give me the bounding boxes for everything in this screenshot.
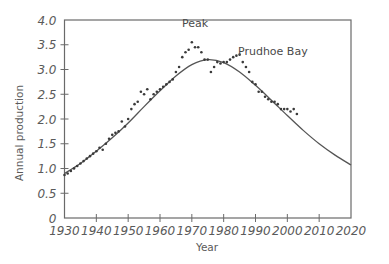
data-point	[76, 165, 79, 168]
data-point	[200, 51, 203, 54]
data-point	[203, 58, 206, 61]
data-point	[121, 120, 124, 123]
data-point	[194, 46, 197, 49]
data-point	[98, 146, 101, 149]
data-point	[210, 71, 213, 74]
data-point	[251, 81, 254, 84]
data-point	[105, 142, 108, 145]
data-point	[162, 86, 165, 89]
y-tick-label: 1.0	[37, 162, 56, 176]
x-tick-label: 1950	[113, 224, 144, 238]
data-point	[143, 93, 146, 96]
data-point	[152, 93, 155, 96]
data-point	[216, 61, 219, 64]
data-point	[178, 66, 181, 69]
data-point	[181, 56, 184, 59]
data-point	[130, 108, 133, 111]
data-point	[248, 71, 251, 74]
data-point	[273, 100, 276, 103]
data-point	[149, 98, 152, 101]
data-point	[264, 95, 267, 98]
x-tick-label: 1980	[208, 224, 239, 238]
y-tick-label: 3.5	[37, 38, 56, 52]
data-point	[257, 90, 260, 93]
data-point	[140, 90, 143, 93]
data-point	[232, 56, 235, 59]
y-tick-label: 4.0	[37, 14, 56, 28]
data-point	[117, 130, 120, 133]
data-point	[146, 88, 149, 91]
data-point	[222, 61, 225, 64]
data-point	[197, 46, 200, 49]
data-point	[114, 132, 117, 135]
data-point	[63, 174, 66, 177]
x-tick-label: 2010	[304, 224, 335, 238]
data-point	[292, 108, 295, 111]
data-point	[219, 62, 222, 65]
data-point	[191, 41, 194, 44]
data-point	[70, 170, 73, 173]
data-point	[85, 157, 88, 160]
data-point	[289, 110, 292, 113]
data-point	[276, 103, 279, 106]
data-point	[226, 61, 229, 64]
data-point	[66, 172, 69, 175]
production-dots	[63, 41, 298, 176]
x-tick-label: 1970	[177, 224, 208, 238]
y-tick-label: 2.5	[37, 88, 56, 102]
x-tick-label: 1930	[49, 224, 80, 238]
data-point	[261, 90, 264, 93]
data-point	[213, 66, 216, 69]
data-point	[92, 152, 95, 155]
data-point	[280, 108, 283, 111]
annotation-label: Peak	[182, 17, 209, 30]
data-point	[95, 150, 98, 153]
data-point	[101, 148, 104, 151]
y-tick-label: 1.5	[37, 137, 56, 151]
data-point	[296, 113, 299, 116]
y-tick-label: 3.0	[37, 63, 56, 77]
data-point	[254, 83, 257, 86]
x-tick-label: 2020	[336, 224, 367, 238]
y-axis-title: Annual production	[13, 85, 25, 181]
plot-frame	[65, 20, 352, 218]
data-point	[175, 71, 178, 74]
data-point	[82, 160, 85, 163]
y-tick-label: 2.0	[37, 113, 56, 127]
x-axis-title: Year	[195, 241, 219, 253]
x-tick-label: 1990	[240, 224, 271, 238]
data-point	[136, 100, 139, 103]
annotation-label: Prudhoe Bay	[238, 45, 308, 58]
hubbert-curve	[65, 60, 352, 174]
data-point	[133, 103, 136, 106]
data-point	[124, 125, 127, 128]
data-point	[79, 162, 82, 165]
data-point	[171, 78, 174, 81]
data-point	[245, 66, 248, 69]
hubbert-chart: 00.51.01.52.02.53.03.54.0 19301940195019…	[0, 0, 389, 264]
x-tick-label: 1960	[145, 224, 176, 238]
data-point	[187, 48, 190, 51]
data-point	[168, 81, 171, 84]
data-point	[267, 98, 270, 101]
x-tick-label: 1940	[81, 224, 112, 238]
data-point	[108, 138, 111, 141]
data-point	[159, 88, 162, 91]
data-point	[73, 167, 76, 170]
data-point	[270, 100, 273, 103]
data-point	[127, 118, 130, 121]
data-point	[184, 51, 187, 54]
data-point	[165, 83, 168, 86]
y-axis: 00.51.01.52.02.53.03.54.0	[37, 14, 68, 226]
data-point	[241, 61, 244, 64]
data-point	[229, 58, 232, 61]
data-point	[89, 155, 92, 158]
data-point	[283, 108, 286, 111]
y-tick-label: 0.5	[37, 187, 56, 201]
data-point	[111, 134, 114, 137]
data-point	[156, 90, 159, 93]
data-point	[286, 108, 289, 111]
data-point	[206, 58, 209, 61]
x-tick-label: 2000	[272, 224, 303, 238]
